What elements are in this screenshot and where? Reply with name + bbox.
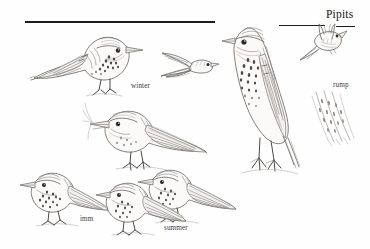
page-title: Pipits: [326, 8, 353, 20]
rump-feather-detail: [310, 90, 362, 148]
caption-winter: winter: [131, 82, 150, 90]
flying-pipit-small: [158, 46, 220, 86]
walking-pipit-middle: [83, 98, 207, 172]
illustration-plate: Pipits: [0, 0, 370, 249]
caption-imm: imm: [80, 215, 93, 223]
caption-rump: rump: [333, 81, 349, 89]
main-rule: [25, 21, 215, 23]
flying-pipit-upper-right: [298, 24, 354, 62]
perched-pipit-winter: [30, 26, 145, 100]
caption-summer: summer: [164, 224, 188, 232]
